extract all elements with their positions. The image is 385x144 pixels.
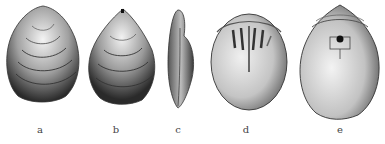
shell-b-exterior-illustration (86, 8, 158, 106)
label-e: e (330, 124, 350, 135)
shell-d-interior-illustration (209, 12, 289, 112)
label-b: b (106, 124, 126, 135)
shell-c-profile-illustration (166, 8, 196, 110)
shell-a-exterior-illustration (4, 4, 82, 104)
shell-e-interior-illustration (298, 3, 382, 121)
label-a: a (30, 124, 50, 135)
label-d: d (236, 124, 256, 135)
label-c: c (168, 124, 188, 135)
shell-plate: a b (0, 0, 385, 144)
